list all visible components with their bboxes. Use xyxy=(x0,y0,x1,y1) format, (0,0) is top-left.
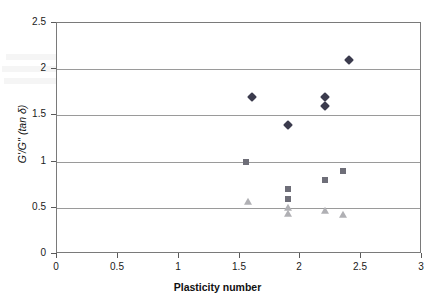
data-point-diamond xyxy=(247,92,257,102)
plot-area xyxy=(56,22,421,253)
data-point-square xyxy=(285,186,291,192)
x-tick-label: 1 xyxy=(158,262,198,272)
x-tick-mark xyxy=(239,253,240,258)
x-tick-label: 2.5 xyxy=(340,262,380,272)
data-point-diamond xyxy=(283,120,293,130)
x-tick-mark xyxy=(421,253,422,258)
x-tick-label: 3 xyxy=(401,262,435,272)
data-point-triangle xyxy=(339,211,347,218)
x-tick-mark xyxy=(178,253,179,258)
y-tick-mark xyxy=(51,22,56,23)
y-tick-mark xyxy=(51,114,56,115)
x-tick-label: 2 xyxy=(279,262,319,272)
x-tick-label: 0.5 xyxy=(97,262,137,272)
x-tick-label: 0 xyxy=(36,262,76,272)
y-axis-title: G'/G'' (tan δ) xyxy=(16,64,28,204)
scatter-chart-figure: 00.511.522.5 00.511.522.53 Plasticity nu… xyxy=(0,0,435,304)
data-point-triangle xyxy=(244,198,252,205)
gridline xyxy=(57,115,420,116)
x-tick-mark xyxy=(117,253,118,258)
x-axis-title: Plasticity number xyxy=(0,281,435,293)
data-point-diamond xyxy=(344,55,354,65)
gridline xyxy=(57,69,420,70)
data-point-square xyxy=(285,196,291,202)
data-point-square xyxy=(322,177,328,183)
x-tick-mark xyxy=(56,253,57,258)
data-point-diamond xyxy=(320,101,330,111)
x-tick-mark xyxy=(299,253,300,258)
data-point-square xyxy=(340,168,346,174)
data-point-triangle xyxy=(284,210,292,217)
x-tick-mark xyxy=(360,253,361,258)
y-tick-mark xyxy=(51,68,56,69)
data-point-diamond xyxy=(320,92,330,102)
y-tick-mark xyxy=(51,207,56,208)
y-tick-label: 2.5 xyxy=(2,17,46,27)
gridline xyxy=(57,208,420,209)
y-tick-mark xyxy=(51,161,56,162)
x-tick-label: 1.5 xyxy=(219,262,259,272)
gridline xyxy=(57,162,420,163)
y-tick-label: 0 xyxy=(2,248,46,258)
